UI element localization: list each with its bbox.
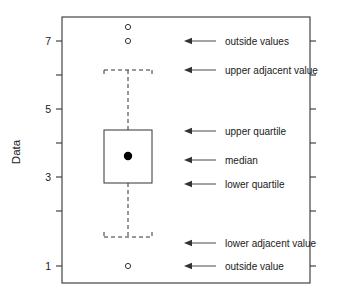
y-tick-label-3: 3 xyxy=(45,171,51,183)
annotation-upper-quartile: upper quartile xyxy=(184,126,287,137)
anno-arrow-head-6 xyxy=(184,263,192,269)
anno-arrow-head-3 xyxy=(184,157,192,163)
anno-label-outside-values: outside values xyxy=(225,36,289,47)
y-tick-label-5: 5 xyxy=(45,103,51,115)
anno-label-lower-quartile: lower quartile xyxy=(225,179,285,190)
y-tick-label-7: 7 xyxy=(45,35,51,47)
annotation-median: median xyxy=(184,155,258,166)
anno-arrow-head-4 xyxy=(184,181,192,187)
box-plot-figure: 7 5 3 1 Data xyxy=(0,0,339,298)
y-axis-ticks-left xyxy=(56,41,62,266)
annotation-lower-adjacent-value: lower adjacent value xyxy=(184,238,317,249)
y-tick-label-1: 1 xyxy=(45,260,51,272)
outside-value-dot-upper-1 xyxy=(125,24,130,29)
median-dot xyxy=(124,152,132,160)
outside-value-dot-lower-1 xyxy=(125,263,130,268)
annotation-outside-values: outside values xyxy=(184,36,289,47)
anno-arrow-head-1 xyxy=(184,67,192,73)
anno-label-median: median xyxy=(225,155,258,166)
outside-value-dot-upper-2 xyxy=(125,38,130,43)
anno-arrow-head-2 xyxy=(184,128,192,134)
anno-arrow-head-0 xyxy=(184,38,192,44)
anno-label-upper-quartile: upper quartile xyxy=(225,126,287,137)
y-axis-title: Data xyxy=(10,139,22,164)
anno-label-upper-adjacent-value: upper adjacent value xyxy=(225,65,318,76)
box-plot-glyph xyxy=(104,24,152,268)
anno-label-outside-value: outside value xyxy=(225,261,284,272)
annotation-outside-value: outside value xyxy=(184,261,284,272)
anno-label-lower-adjacent-value: lower adjacent value xyxy=(225,238,317,249)
anno-arrow-head-5 xyxy=(184,240,192,246)
box-plot-svg: 7 5 3 1 Data xyxy=(0,0,339,298)
annotation-lower-quartile: lower quartile xyxy=(184,179,285,190)
annotation-upper-adjacent-value: upper adjacent value xyxy=(184,65,318,76)
